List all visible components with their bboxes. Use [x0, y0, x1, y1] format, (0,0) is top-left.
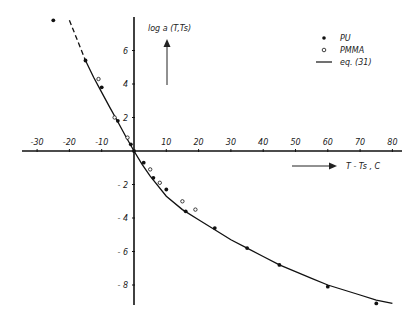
y-tick-label: - 4 — [117, 214, 128, 223]
pmma-point — [149, 168, 152, 171]
pu-point — [245, 246, 249, 250]
x-tick-label: -10 — [95, 138, 108, 147]
pu-point — [326, 285, 330, 289]
pmma-point — [194, 208, 197, 211]
pu-point — [100, 85, 104, 89]
pmma-point — [126, 136, 129, 139]
legend-label-pu: PU — [340, 34, 351, 43]
pu-point — [142, 161, 146, 165]
chart-canvas: -30-20-101020304050607080642- 2- 4- 6- 8… — [0, 0, 418, 327]
x-tick-label: 70 — [355, 138, 365, 147]
legend-label-eq: eq. (31) — [340, 58, 372, 67]
y-tick-label: 6 — [123, 47, 128, 56]
tick-marks: -30-20-101020304050607080642- 2- 4- 6- 8 — [31, 47, 398, 291]
pmma-point — [181, 200, 184, 203]
x-axis-label: T - Ts , C — [346, 162, 381, 171]
pu-point — [164, 188, 168, 192]
pu-point — [184, 209, 188, 213]
pu-point — [132, 149, 136, 153]
pmma-point — [113, 116, 116, 119]
legend-label-pmma: PMMA — [340, 46, 364, 55]
x-tick-label: 50 — [290, 138, 300, 147]
chart-container: -30-20-101020304050607080642- 2- 4- 6- 8… — [0, 0, 418, 327]
x-axis-arrow-icon — [292, 163, 337, 170]
y-axis-arrow-icon — [164, 39, 171, 85]
pu-point — [152, 176, 156, 180]
curve-dashed-segment — [69, 20, 85, 60]
legend: PU PMMA eq. (31) — [316, 34, 372, 67]
pu-point — [129, 142, 133, 146]
curve-solid-segment — [86, 61, 393, 304]
pu-point — [116, 119, 120, 123]
y-axis-label: log a (T,Ts) — [148, 24, 191, 33]
legend-filled-circle-icon — [322, 36, 326, 40]
x-tick-label: 30 — [226, 138, 236, 147]
y-tick-label: - 6 — [117, 248, 128, 257]
pu-point — [84, 59, 88, 63]
y-tick-label: 4 — [123, 80, 128, 89]
pu-point — [213, 226, 217, 230]
pu-point — [374, 302, 378, 306]
x-tick-label: 40 — [258, 138, 268, 147]
y-tick-label: - 8 — [117, 281, 128, 290]
x-tick-label: 20 — [194, 138, 204, 147]
y-tick-label: - 2 — [117, 181, 128, 190]
legend-open-circle-icon — [322, 48, 326, 52]
x-tick-label: 60 — [323, 138, 333, 147]
x-tick-label: -30 — [31, 138, 44, 147]
pu-point — [278, 263, 282, 267]
y-tick-label: 2 — [123, 114, 128, 123]
pu-point — [51, 18, 55, 22]
pmma-point — [158, 181, 161, 184]
x-tick-label: -20 — [63, 138, 76, 147]
pmma-point — [97, 77, 100, 80]
x-tick-label: 80 — [387, 138, 397, 147]
x-tick-label: 10 — [161, 138, 171, 147]
